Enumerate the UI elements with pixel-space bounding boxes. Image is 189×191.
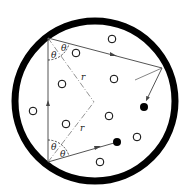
ray-segment-bottom-to-particle [48, 143, 114, 162]
theta-label-bottom-right: θ [60, 149, 66, 159]
particle-open [105, 112, 113, 120]
theta-label-top-left: θ [51, 50, 57, 60]
bisector-top [48, 38, 94, 102]
particle-open [29, 107, 37, 115]
ray-segment-right-to-particle [147, 68, 162, 99]
particle-open [133, 133, 141, 141]
reflection-diagram: θ θ θ θ r r [0, 0, 189, 191]
particle-filled [113, 138, 121, 146]
radius-label-top: r [81, 72, 86, 82]
radius-label-bottom: r [80, 123, 85, 133]
theta-label-bottom-left: θ [51, 142, 57, 152]
particle-filled [140, 103, 148, 111]
ray-arrow-right [110, 52, 117, 56]
particle-open [108, 35, 116, 43]
ray-arrow-bottom [94, 146, 101, 150]
particle-open [110, 75, 118, 83]
particle-open [62, 120, 70, 128]
ray-arrow-up [46, 100, 50, 106]
particle-open [72, 49, 80, 57]
theta-label-top-right: θ [61, 43, 67, 53]
bisector-bottom [48, 102, 94, 162]
particle-open [58, 80, 66, 88]
ray-segment-right-inner [135, 68, 162, 80]
particle-open [96, 158, 104, 166]
circular-boundary [15, 21, 175, 181]
